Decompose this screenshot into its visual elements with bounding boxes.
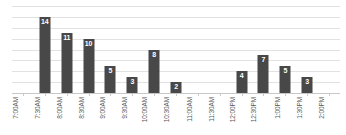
x-axis-tick [110,93,111,96]
x-axis-label-slot: 10:00AM [143,97,165,135]
x-axis-tick [132,93,133,96]
x-axis-label-slot: 11:00AM [187,97,209,135]
bar-chart: 14111053824753 7:00AM7:30AM8:00AM8:30AM9… [0,0,346,135]
bar: 11 [61,33,72,93]
x-axis-label: 11:00AM [185,97,192,122]
bar-slot [187,6,209,93]
x-axis-label-slot: 8:30AM [78,97,100,135]
x-axis-label-slot: 9:30AM [121,97,143,135]
bar-slot: 2 [165,6,187,93]
bar-value-label: 10 [85,40,92,48]
bar-slot: 3 [296,6,318,93]
x-axis-label: 9:30AM [121,97,128,119]
x-axis-label-slot: 1:00PM [274,97,296,135]
bar-slot: 8 [143,6,165,93]
x-axis-tick [198,93,199,96]
bar: 3 [127,77,138,93]
bar: 3 [302,77,313,93]
x-axis-tick [67,93,68,96]
x-axis-label: 7:30AM [34,97,41,119]
x-axis-label-slot: 7:30AM [34,97,56,135]
bars-layer: 14111053824753 [12,6,340,93]
x-axis-label: 11:30AM [207,97,214,122]
bar-value-label: 3 [130,78,134,86]
bar: 4 [236,71,247,93]
bar-slot: 4 [231,6,253,93]
x-axis-label: 9:00AM [99,97,106,119]
x-axis-label-slot: 11:30AM [209,97,231,135]
bar: 7 [258,55,269,93]
bar: 5 [105,66,116,93]
bar-slot [12,6,34,93]
bar-slot: 14 [34,6,56,93]
x-axis-tick [285,93,286,96]
x-axis-label-slot: 9:00AM [99,97,121,135]
x-axis-label-slot: 7:00AM [12,97,34,135]
bar-value-label: 2 [174,83,178,91]
x-axis-label: 1:30PM [296,97,303,119]
bar-value-label: 3 [305,78,309,86]
bar-slot [209,6,231,93]
x-axis-tick [329,93,330,96]
x-axis-tick [176,93,177,96]
bar-value-label: 5 [283,67,287,75]
x-axis-label: 10:00AM [141,97,148,122]
bar: 2 [170,82,181,93]
x-axis-label: 7:00AM [12,97,19,119]
x-axis-tick [242,93,243,96]
bar: 10 [83,39,94,93]
x-axis-label-slot: 10:30AM [165,97,187,135]
x-axis-tick [263,93,264,96]
x-axis-label-slot: 12:00PM [231,97,253,135]
x-axis-label: 12:00PM [229,97,236,122]
x-axis-tick [307,93,308,96]
bar-slot: 5 [274,6,296,93]
x-axis-label: 8:30AM [78,97,85,119]
x-axis-label: 8:00AM [56,97,63,119]
bar-value-label: 14 [41,18,48,26]
bar: 8 [149,50,160,94]
bar: 14 [39,17,50,93]
bar-value-label: 4 [240,72,244,80]
x-axis-labels: 7:00AM7:30AM8:00AM8:30AM9:00AM9:30AM10:0… [12,97,340,135]
x-axis-label-slot: 8:00AM [56,97,78,135]
bar-slot: 11 [56,6,78,93]
x-axis-tick [45,93,46,96]
x-axis-tick [220,93,221,96]
bar-value-label: 11 [63,34,70,42]
x-axis-label: 12:30PM [251,97,258,122]
bar: 5 [280,66,291,93]
bar-slot: 10 [78,6,100,93]
x-axis-label: 1:00PM [274,97,281,119]
x-axis-tick [23,93,24,96]
x-axis-label: 10:30AM [163,97,170,122]
bar-slot: 3 [121,6,143,93]
x-axis-tick [89,93,90,96]
x-axis-label: 2:00PM [318,97,325,119]
bar-slot [318,6,340,93]
x-axis-label-slot: 2:00PM [318,97,340,135]
x-axis-tick [154,93,155,96]
bar-slot: 7 [253,6,275,93]
bar-value-label: 5 [109,67,113,75]
x-axis-label-slot: 1:30PM [296,97,318,135]
bar-value-label: 7 [262,56,266,64]
bar-value-label: 8 [152,51,156,59]
bar-slot: 5 [99,6,121,93]
x-axis-label-slot: 12:30PM [253,97,275,135]
